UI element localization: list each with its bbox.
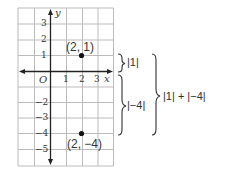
y-tick-neg4: −4 — [35, 129, 48, 138]
y-tick-2: 2 — [41, 35, 47, 44]
lower-brace-label: |−4| — [127, 100, 145, 111]
y-axis-up-arrow-icon — [48, 9, 53, 15]
x-tick-1: 1 — [63, 75, 69, 84]
total-brace-label: |1| + |−4| — [163, 91, 206, 102]
y-axis-down-arrow-icon — [48, 159, 53, 165]
upper-brace-label: |1| — [127, 57, 139, 68]
y-tick-neg5: −5 — [35, 145, 48, 154]
y-tick-1: 1 — [41, 51, 47, 60]
coordinate-grid — [0, 0, 225, 174]
x-axis-label: x — [104, 74, 110, 84]
point-label-2-1: (2, 1) — [66, 41, 94, 53]
brace-total — [152, 54, 160, 135]
origin-label: O — [39, 75, 47, 85]
brace-lower — [118, 75, 126, 135]
point-2-neg4 — [79, 131, 84, 136]
brace-upper — [118, 54, 125, 72]
y-tick-3: 3 — [41, 19, 47, 28]
x-tick-3: 3 — [94, 75, 100, 84]
x-axis-left-arrow-icon — [19, 69, 25, 74]
y-tick-neg2: −2 — [35, 98, 48, 107]
y-axis-label: y — [55, 8, 61, 18]
x-tick-2: 2 — [79, 75, 85, 84]
y-tick-neg3: −3 — [35, 113, 48, 122]
point-label-2-neg4: (2, −4) — [67, 138, 102, 150]
